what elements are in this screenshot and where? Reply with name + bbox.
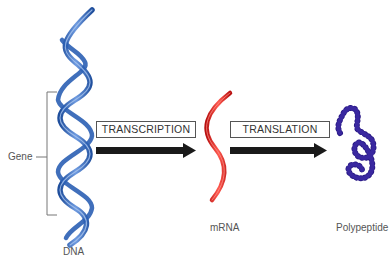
transcription-label-box: TRANSCRIPTION [96, 121, 196, 138]
dna-label: DNA [63, 246, 84, 257]
dna-helix-icon [58, 10, 92, 245]
mrna-strand-icon [207, 93, 230, 200]
gene-bracket [36, 92, 57, 215]
transcription-arrow [96, 143, 196, 158]
translation-arrow [230, 143, 327, 158]
transcription-label: TRANSCRIPTION [102, 123, 190, 135]
mrna-label: mRNA [210, 222, 239, 233]
polypeptide-chain-icon [338, 108, 373, 178]
translation-label: TRANSLATION [243, 123, 318, 135]
polypeptide-label: Polypeptide [336, 222, 388, 233]
translation-label-box: TRANSLATION [230, 121, 330, 138]
gene-label: Gene [8, 151, 32, 162]
